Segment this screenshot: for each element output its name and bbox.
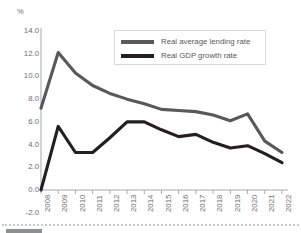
legend-swatch-gdp-growth bbox=[121, 54, 154, 58]
footer-corner-bar bbox=[6, 229, 42, 233]
chart-legend: Real average lending rate Real GDP growt… bbox=[114, 30, 266, 65]
series-line-gdp-growth bbox=[41, 122, 282, 190]
footer-dotted-divider bbox=[2, 224, 299, 228]
series-line-lending-rate bbox=[41, 53, 282, 153]
legend-label-lending-rate: Real average lending rate bbox=[161, 37, 250, 46]
legend-swatch-lending-rate bbox=[121, 40, 154, 44]
legend-item-lending-rate: Real average lending rate bbox=[121, 35, 250, 48]
chart-figure: % 14.012.010.08.06.04.02.00.0-2.0 200820… bbox=[0, 0, 301, 233]
legend-label-gdp-growth: Real GDP growth rate bbox=[161, 51, 237, 60]
legend-item-gdp-growth: Real GDP growth rate bbox=[121, 49, 237, 62]
